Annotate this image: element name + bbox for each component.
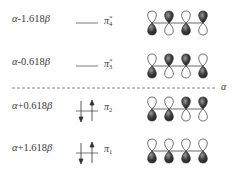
orbital-row-pi2: [148, 97, 208, 121]
p-orbital-lobe-light: [182, 66, 191, 78]
orbital-lobes-group: [148, 11, 208, 163]
p-orbital-lobe-dark: [165, 151, 174, 163]
p-orbital-lobe-light: [165, 97, 174, 109]
p-orbital-lobe-dark: [182, 54, 191, 66]
orbital-row-pi3: [148, 54, 208, 78]
p-orbital-lobe-dark: [199, 151, 208, 163]
orbital-row-pi4: [148, 11, 208, 35]
p-orbital-lobe-light: [165, 23, 174, 35]
p-orbital-lobe-light: [199, 109, 208, 121]
p-orbital-lobe-dark: [165, 54, 174, 66]
p-orbital-lobe-dark: [182, 151, 191, 163]
p-orbital-lobe-dark: [199, 97, 208, 109]
p-orbital-lobe-light: [165, 139, 174, 151]
p-orbital-lobe-dark: [199, 66, 208, 78]
mo-diagram-graphics: [0, 0, 240, 178]
orbital-row-pi1: [148, 139, 208, 163]
p-orbital-lobe-light: [165, 66, 174, 78]
p-orbital-lobe-dark: [165, 109, 174, 121]
p-orbital-lobe-light: [148, 139, 157, 151]
p-orbital-lobe-light: [182, 11, 191, 23]
p-orbital-lobe-dark: [165, 11, 174, 23]
p-orbital-lobe-light: [182, 109, 191, 121]
p-orbital-lobe-light: [148, 11, 157, 23]
p-orbital-lobe-dark: [148, 23, 157, 35]
p-orbital-lobe-light: [199, 23, 208, 35]
p-orbital-lobe-dark: [199, 11, 208, 23]
p-orbital-lobe-light: [182, 139, 191, 151]
p-orbital-lobe-light: [148, 54, 157, 66]
p-orbital-lobe-light: [148, 97, 157, 109]
p-orbital-lobe-dark: [182, 23, 191, 35]
p-orbital-lobe-light: [199, 139, 208, 151]
p-orbital-lobe-light: [199, 54, 208, 66]
p-orbital-lobe-dark: [148, 66, 157, 78]
p-orbital-lobe-dark: [182, 97, 191, 109]
p-orbital-lobe-dark: [148, 151, 157, 163]
p-orbital-lobe-dark: [148, 109, 157, 121]
